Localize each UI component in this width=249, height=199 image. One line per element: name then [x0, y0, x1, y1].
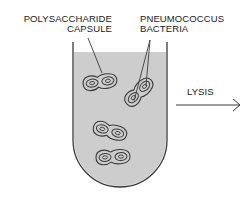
tube-liquid [74, 52, 166, 186]
lysis-label: LYSIS [187, 87, 214, 97]
capsule-label: POLYSACCHARIDE CAPSULE [6, 14, 112, 34]
capsule-label-line2: CAPSULE [6, 24, 112, 34]
bacteria-label: PNEUMOCOCCUS BACTERIA [140, 14, 224, 34]
bacteria-label-line2: BACTERIA [140, 24, 224, 34]
